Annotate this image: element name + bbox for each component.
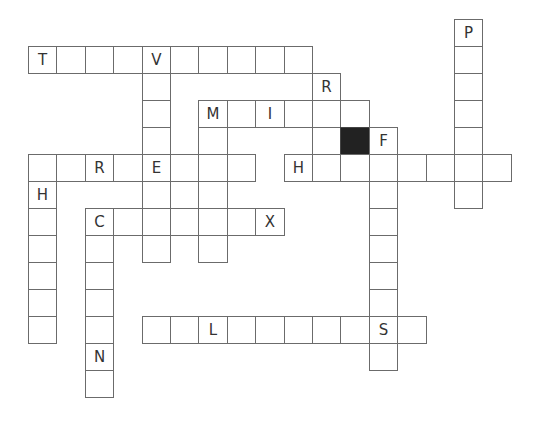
crossword-cell[interactable]: X bbox=[255, 208, 285, 236]
crossword-cell[interactable] bbox=[426, 154, 455, 182]
blocked-cell bbox=[340, 127, 370, 155]
crossword-cell[interactable] bbox=[198, 127, 228, 155]
crossword-cell[interactable] bbox=[113, 154, 143, 182]
crossword-cell[interactable] bbox=[369, 154, 398, 182]
crossword-cell[interactable] bbox=[142, 100, 171, 128]
crossword-cell[interactable] bbox=[28, 316, 57, 344]
crossword-cell[interactable] bbox=[227, 100, 256, 128]
crossword-cell[interactable] bbox=[142, 73, 171, 101]
crossword-cell[interactable] bbox=[454, 46, 483, 74]
crossword-cell[interactable]: T bbox=[28, 46, 57, 74]
crossword-cell[interactable] bbox=[142, 235, 171, 263]
crossword-cell[interactable]: H bbox=[28, 181, 57, 209]
crossword-cell[interactable] bbox=[170, 208, 199, 236]
crossword-cell[interactable] bbox=[56, 46, 86, 74]
crossword-cell[interactable] bbox=[85, 235, 114, 263]
crossword-cell[interactable] bbox=[85, 289, 114, 317]
crossword-cell[interactable] bbox=[284, 46, 313, 74]
crossword-cell[interactable] bbox=[255, 316, 285, 344]
crossword-cell[interactable] bbox=[28, 208, 57, 236]
crossword-cell[interactable] bbox=[284, 100, 313, 128]
crossword-cell[interactable] bbox=[142, 316, 171, 344]
crossword-cell[interactable] bbox=[397, 154, 427, 182]
crossword-cell[interactable] bbox=[340, 154, 370, 182]
crossword-cell[interactable] bbox=[227, 316, 256, 344]
crossword-cell[interactable]: M bbox=[198, 100, 228, 128]
crossword-cell[interactable] bbox=[198, 181, 228, 209]
crossword-cell[interactable]: E bbox=[142, 154, 171, 182]
crossword-cell[interactable]: F bbox=[369, 127, 398, 155]
crossword-cell[interactable] bbox=[340, 100, 370, 128]
crossword-cell[interactable]: H bbox=[284, 154, 313, 182]
crossword-cell[interactable]: P bbox=[454, 19, 483, 47]
crossword-cell[interactable] bbox=[85, 46, 114, 74]
crossword-cell[interactable] bbox=[28, 262, 57, 290]
crossword-cell[interactable] bbox=[142, 181, 171, 209]
crossword-cell[interactable] bbox=[284, 316, 313, 344]
crossword-cell[interactable]: V bbox=[142, 46, 171, 74]
crossword-cell[interactable] bbox=[369, 235, 398, 263]
crossword-cell[interactable] bbox=[28, 289, 57, 317]
crossword-cell[interactable] bbox=[85, 370, 114, 398]
crossword-cell[interactable]: C bbox=[85, 208, 114, 236]
crossword-cell[interactable] bbox=[312, 100, 341, 128]
crossword-cell[interactable]: R bbox=[85, 154, 114, 182]
crossword-cell[interactable] bbox=[369, 208, 398, 236]
crossword-cell[interactable]: L bbox=[198, 316, 228, 344]
crossword-cell[interactable] bbox=[113, 46, 143, 74]
crossword-cell[interactable] bbox=[85, 316, 114, 344]
crossword-cell[interactable] bbox=[198, 154, 228, 182]
crossword-cell[interactable] bbox=[454, 154, 483, 182]
crossword-cell[interactable] bbox=[369, 343, 398, 371]
crossword-cell[interactable] bbox=[454, 73, 483, 101]
crossword-cell[interactable] bbox=[142, 208, 171, 236]
crossword-cell[interactable] bbox=[312, 127, 341, 155]
crossword-cell[interactable]: S bbox=[369, 316, 398, 344]
crossword-cell[interactable] bbox=[198, 235, 228, 263]
crossword-cell[interactable] bbox=[227, 46, 256, 74]
crossword-cell[interactable] bbox=[340, 316, 370, 344]
crossword-cell[interactable] bbox=[454, 127, 483, 155]
crossword-cell[interactable] bbox=[198, 46, 228, 74]
crossword-cell[interactable] bbox=[227, 208, 256, 236]
crossword-cell[interactable]: N bbox=[85, 343, 114, 371]
crossword-cell[interactable] bbox=[454, 181, 483, 209]
crossword-cell[interactable] bbox=[198, 208, 228, 236]
crossword-cell[interactable] bbox=[85, 262, 114, 290]
crossword-cell[interactable] bbox=[113, 208, 143, 236]
crossword-cell[interactable] bbox=[28, 235, 57, 263]
crossword-cell[interactable] bbox=[255, 46, 285, 74]
crossword-cell[interactable] bbox=[482, 154, 512, 182]
crossword-cell[interactable] bbox=[170, 316, 199, 344]
crossword-cell[interactable]: I bbox=[255, 100, 285, 128]
crossword-cell[interactable] bbox=[454, 100, 483, 128]
crossword-cell[interactable] bbox=[369, 262, 398, 290]
crossword-cell[interactable] bbox=[142, 127, 171, 155]
crossword-cell[interactable] bbox=[397, 316, 427, 344]
crossword-cell[interactable] bbox=[56, 154, 86, 182]
crossword-cell[interactable] bbox=[227, 154, 256, 182]
crossword-cell[interactable] bbox=[312, 316, 341, 344]
crossword-cell[interactable] bbox=[170, 154, 199, 182]
crossword-cell[interactable] bbox=[369, 181, 398, 209]
crossword-cell[interactable] bbox=[369, 289, 398, 317]
crossword-cell[interactable] bbox=[28, 154, 57, 182]
crossword-grid: PTVRMIFREHHCXLSN bbox=[0, 0, 541, 421]
crossword-cell[interactable] bbox=[170, 46, 199, 74]
crossword-cell[interactable]: R bbox=[312, 73, 341, 101]
crossword-cell[interactable] bbox=[312, 154, 341, 182]
